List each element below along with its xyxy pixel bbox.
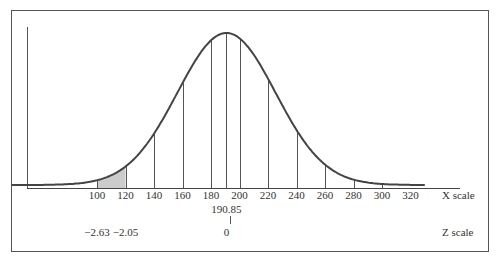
x-tick-label: 240 [288,189,305,201]
x-tick-label: 160 [174,189,191,201]
figure-frame [12,11,489,252]
x-tick-label: 200 [231,189,248,201]
normal-distribution-figure: 100120140160180200220240260280300320 X s… [0,0,497,259]
z-scale-tick-labels: −2.63−2.050 [84,226,229,238]
normal-curve [12,33,425,185]
x-tick-label: 320 [402,189,419,201]
x-scale-label: X scale [442,189,475,201]
mean-label: 190.85 [211,203,242,215]
x-tick-label: 280 [345,189,362,201]
z-scale-label: Z scale [442,226,474,238]
x-tick-label: 140 [146,189,163,201]
z-tick-label: 0 [224,226,230,238]
z-tick-label: −2.63 [84,226,110,238]
x-tick-label: 100 [89,189,106,201]
x-tick-label: 260 [317,189,334,201]
x-tick-label: 220 [260,189,277,201]
x-tick-label: 120 [117,189,134,201]
x-tick-label: 300 [374,189,391,201]
z-tick-label: −2.05 [113,226,139,238]
x-tick-label: 180 [203,189,220,201]
vertical-guide-lines [98,33,383,188]
x-scale-tick-labels: 100120140160180200220240260280300320 [89,189,420,201]
